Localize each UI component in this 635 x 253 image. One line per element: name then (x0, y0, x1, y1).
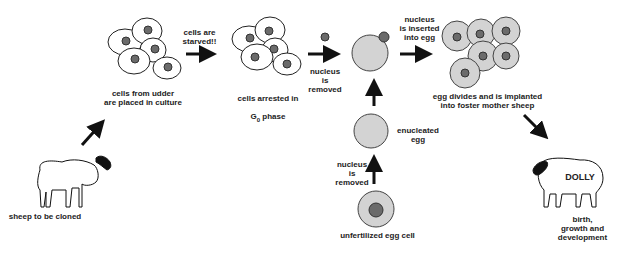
label-udder-cells: cells from udder are placed in culture (98, 89, 188, 107)
arrow-up-right-icon (82, 126, 99, 145)
label-nucleus-removed-top: nucleus is removed (305, 67, 345, 94)
dolly-sheep-icon (533, 158, 603, 207)
donor-sheep-icon (38, 156, 111, 207)
label-birth-growth: birth, growth and development (550, 215, 615, 242)
unfertilized-egg-icon (358, 191, 394, 227)
arrested-phase: phase (260, 112, 285, 121)
arrested-line1: cells arrested in (238, 94, 299, 103)
enucleated-egg-icon (354, 114, 388, 148)
label-egg-divides: egg divides and is implanted into foster… (425, 92, 550, 110)
removed-nucleus-icon (321, 33, 329, 41)
udder-cells-icon (108, 18, 181, 79)
cloning-diagram (0, 0, 635, 253)
arrow-down-right-icon (524, 115, 542, 133)
label-enucleated-egg: enucleated egg (393, 126, 443, 144)
label-cells-arrested: cells arrested in G0 phase (228, 85, 308, 125)
label-unfertilized-egg: unfertilized egg cell (330, 231, 425, 240)
arrested-cells-icon (232, 17, 301, 75)
label-nucleus-removed-bottom: nucleus is removed (333, 160, 371, 187)
label-sheep-to-be-cloned: sheep to be cloned (0, 212, 90, 221)
embryo-cells-icon (442, 17, 520, 88)
label-nucleus-inserted: nucleus is inserted into egg (397, 15, 442, 42)
label-cells-starved: cells are starved!! (182, 28, 217, 46)
egg-with-nucleus-icon (352, 32, 389, 71)
label-dolly: DOLLY (560, 173, 600, 182)
